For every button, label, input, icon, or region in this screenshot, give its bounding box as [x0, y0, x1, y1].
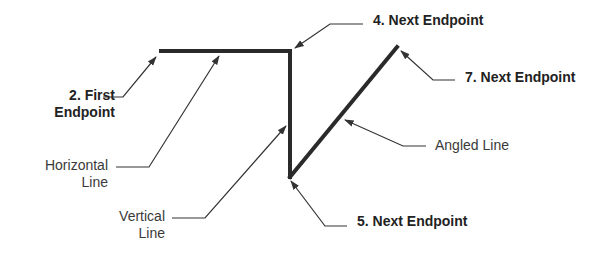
- vertical-line-leader-arrow: [172, 126, 286, 218]
- label-next-endpoint-7: 7. Next Endpoint: [465, 69, 605, 86]
- label-line-1: Vertical: [105, 208, 165, 225]
- label-line-1: 2. First: [20, 87, 115, 104]
- next-endpoint-5-leader-arrow: [291, 181, 347, 226]
- label-line-2: Endpoint: [20, 104, 115, 121]
- next-endpoint-7-leader-arrow: [401, 51, 455, 80]
- label-next-endpoint-5: 5. Next Endpoint: [357, 213, 497, 230]
- label-angled-line: Angled Line: [435, 137, 535, 154]
- label-line-1: 5. Next Endpoint: [357, 213, 497, 230]
- label-line-2: Line: [30, 174, 108, 191]
- label-line-1: 7. Next Endpoint: [465, 69, 605, 86]
- label-line-1: 4. Next Endpoint: [373, 12, 513, 29]
- label-line-2: Line: [105, 225, 165, 242]
- horizontal-line-leader-arrow: [116, 56, 219, 167]
- label-first-endpoint: 2. First Endpoint: [20, 87, 115, 121]
- angled-line-leader-arrow: [345, 120, 426, 146]
- label-vertical-line: Vertical Line: [105, 208, 165, 242]
- label-next-endpoint-4: 4. Next Endpoint: [373, 12, 513, 29]
- label-line-1: Angled Line: [435, 137, 535, 154]
- label-horizontal-line: Horizontal Line: [30, 157, 108, 191]
- angled-line: [290, 47, 397, 177]
- next-endpoint-4-leader-arrow: [295, 24, 363, 48]
- leader-lines: [103, 24, 455, 226]
- label-line-1: Horizontal: [30, 157, 108, 174]
- line-drawing-diagram: [0, 0, 612, 253]
- drawn-shape: [161, 47, 397, 177]
